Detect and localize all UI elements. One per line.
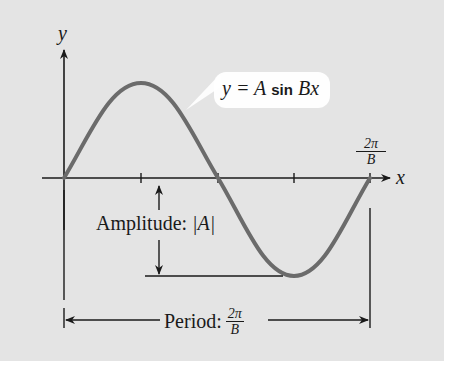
tick-numerator: 2π [356,136,386,152]
period-label: Period: 2π B [164,306,244,337]
amplitude-text: Amplitude: [96,212,192,234]
amplitude-label: Amplitude: |A| [96,212,215,235]
equation-lhs: y = A [222,77,266,99]
x-axis-label: x [396,166,405,189]
diagram-canvas: y x y = A sin Bx 2π B Amplitude: |A| Per… [0,0,459,368]
period-tick-label: 2π B [356,136,386,167]
amplitude-value: |A| [192,212,215,234]
period-fraction: 2π B [226,306,244,337]
equation-function: sin [271,81,293,98]
sine-curve [64,83,370,276]
period-denominator: B [226,322,244,337]
period-text: Period: [164,310,222,333]
y-axis-label: y [58,22,67,45]
equation-rhs: Bx [298,77,319,99]
period-numerator: 2π [226,306,244,322]
curve-equation-label: y = A sin Bx [222,77,319,100]
tick-denominator: B [356,152,386,167]
